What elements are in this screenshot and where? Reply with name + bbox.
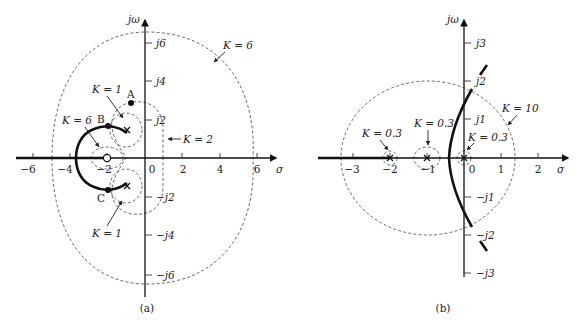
y-tick-label: −j2 — [476, 229, 495, 241]
x-tick-label: −3 — [344, 163, 359, 175]
point-b — [105, 123, 111, 129]
point-c-label: C — [97, 192, 105, 204]
x-tick-label: −6 — [20, 163, 36, 175]
x-tick-label: 2 — [180, 163, 187, 175]
k03-right-label: K = 0.3 — [467, 131, 508, 143]
x-tick-label: 4 — [217, 163, 224, 175]
k6-outer-label: K = 6 — [222, 39, 253, 51]
k1-contour-upper — [110, 113, 142, 147]
k03-left-label: K = 0.3 — [361, 127, 402, 139]
k2-label: K = 2 — [182, 133, 213, 145]
point-a — [128, 100, 134, 106]
x-tick-label: −4 — [57, 163, 73, 175]
asymptote-lower-b — [480, 241, 487, 251]
caption-b: (b) — [436, 302, 451, 314]
caption-a: (a) — [140, 302, 154, 314]
y-tick-label: −j1 — [476, 191, 495, 203]
k1-upper-label: K = 1 — [91, 83, 122, 95]
root-locus-figure: −6 −4 −2 0 2 4 6 σ jω j6 j4 j2 −j2 −j4 −… — [0, 0, 579, 327]
y-tick-label: −j3 — [476, 267, 495, 279]
sigma-label-b: σ — [557, 163, 565, 175]
panel-b: −3 −2 −1 0 1 2 σ jω j3 j2 j1 −j1 −j2 −j3 — [318, 13, 568, 314]
x-tick-label: 2 — [535, 163, 542, 175]
point-a-label: A — [126, 88, 135, 100]
zero-a — [103, 154, 110, 161]
y-tick-label: j2 — [474, 75, 486, 87]
y-tick-label: j2 — [154, 114, 166, 126]
y-ticks-a — [145, 43, 152, 275]
jw-label-b: jω — [445, 13, 459, 25]
x-tick-label: 0 — [149, 163, 156, 175]
asymptote-upper-b — [480, 65, 487, 75]
y-tick-label: j6 — [154, 37, 166, 49]
point-b-label: B — [97, 113, 105, 125]
x-tick-label: −2 — [382, 163, 397, 175]
y-tick-label: −j4 — [156, 229, 175, 241]
x-tick-label: −1 — [420, 163, 435, 175]
y-tick-label: −j6 — [156, 269, 175, 281]
panel-a: −6 −4 −2 0 2 4 6 σ jω j6 j4 j2 −j2 −j4 −… — [16, 13, 284, 314]
k03-mid-label: K = 0.3 — [413, 117, 454, 129]
jw-label-a: jω — [126, 13, 140, 25]
x-tick-label: 6 — [254, 163, 261, 175]
x-tick-label: 1 — [498, 163, 505, 175]
point-c — [105, 187, 111, 193]
k1-contour-lower — [110, 169, 142, 203]
sigma-label-a: σ — [276, 163, 284, 175]
x-tick-label: −2 — [96, 163, 111, 175]
k10-label: K = 10 — [501, 102, 539, 114]
y-tick-label: j1 — [474, 113, 486, 125]
k6-inner-label: K = 6 — [61, 114, 92, 126]
k1-lower-label: K = 1 — [91, 227, 122, 239]
y-tick-label: j4 — [154, 75, 166, 87]
y-tick-label: −j2 — [156, 191, 175, 203]
y-tick-label: j3 — [474, 37, 486, 49]
x-tick-label: 0 — [469, 163, 476, 175]
